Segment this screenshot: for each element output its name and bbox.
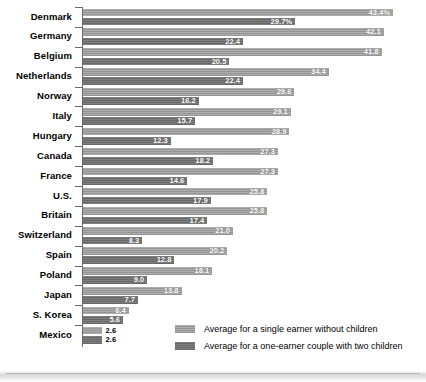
bar-value-label: 12.8 bbox=[157, 256, 172, 264]
category-label: Hungary bbox=[0, 130, 72, 141]
bar-row: Hungary28.912.3 bbox=[0, 126, 426, 146]
bar-value-label: 22.4 bbox=[225, 77, 240, 85]
bar-value-label: 22.4 bbox=[225, 38, 240, 46]
bar-light bbox=[83, 68, 329, 76]
bar-pair: 27.318.2 bbox=[83, 148, 426, 165]
bar-pair: 18.19.0 bbox=[83, 267, 426, 284]
bar-value-label: 25.8 bbox=[250, 188, 265, 196]
bar-row: Spain20.212.8 bbox=[0, 246, 426, 266]
axis-tick bbox=[75, 305, 82, 306]
bar-dark bbox=[83, 58, 229, 66]
legend-item: Average for a one-earner couple with two… bbox=[175, 339, 425, 353]
bar-pair: 21.08.3 bbox=[83, 227, 426, 244]
category-label: Belgium bbox=[0, 50, 72, 61]
category-label: Britain bbox=[0, 209, 72, 220]
bar-value-label: 29.1 bbox=[273, 108, 288, 116]
tax-burden-bar-chart: Denmark43.4%29.7%Germany42.122.4Belgium4… bbox=[0, 0, 426, 382]
bar-dark bbox=[83, 38, 243, 46]
bar-pair: 28.912.3 bbox=[83, 128, 426, 145]
bar-value-label: 17.9 bbox=[193, 197, 208, 205]
axis-tick bbox=[75, 325, 82, 326]
bar-row: Denmark43.4%29.7% bbox=[0, 7, 426, 27]
bar-pair: 20.212.8 bbox=[83, 247, 426, 264]
axis-tick bbox=[75, 226, 82, 227]
axis-tick bbox=[75, 126, 82, 127]
category-label: S. Korea bbox=[0, 309, 72, 320]
axis-tick bbox=[75, 266, 82, 267]
bar-row: Italy29.115.7 bbox=[0, 106, 426, 126]
bar-row: Norway29.616.2 bbox=[0, 87, 426, 107]
bar-pair: 25.817.9 bbox=[83, 188, 426, 205]
axis-tick bbox=[75, 246, 82, 247]
bar-light bbox=[83, 148, 278, 156]
bar-row: U.S.25.817.9 bbox=[0, 186, 426, 206]
category-label: Spain bbox=[0, 249, 72, 260]
bar-value-label: 8.3 bbox=[129, 237, 140, 245]
bar-value-label: 18.2 bbox=[195, 157, 210, 165]
axis-tick bbox=[75, 206, 82, 207]
axis-tick bbox=[75, 7, 82, 8]
bar-pair: 25.817.4 bbox=[83, 207, 426, 224]
bar-value-label: 34.4 bbox=[311, 68, 326, 76]
axis-tick bbox=[75, 285, 82, 286]
category-label: Netherlands bbox=[0, 70, 72, 81]
bar-light bbox=[83, 88, 294, 96]
legend-label: Average for a single earner without chil… bbox=[204, 324, 377, 334]
category-label: Poland bbox=[0, 269, 72, 280]
bar-dark bbox=[83, 77, 243, 85]
bar-value-label: 9.0 bbox=[134, 276, 145, 284]
bar-light bbox=[83, 28, 384, 36]
bar-pair: 29.616.2 bbox=[83, 88, 426, 105]
bar-value-label: 17.4 bbox=[190, 217, 205, 225]
bar-value-label: 14.6 bbox=[170, 177, 185, 185]
category-label: Norway bbox=[0, 90, 72, 101]
bar-value-label: 16.2 bbox=[181, 97, 196, 105]
bar-value-label: 7.7 bbox=[124, 296, 135, 304]
bar-value-label: 29.7% bbox=[271, 18, 293, 26]
category-label: U.S. bbox=[0, 190, 72, 201]
category-label: Denmark bbox=[0, 11, 72, 22]
legend-item: Average for a single earner without chil… bbox=[175, 322, 425, 336]
bar-light bbox=[83, 188, 267, 196]
bar-value-label: 21.0 bbox=[215, 227, 230, 235]
bar-pair: 13.87.7 bbox=[83, 287, 426, 304]
bar-light bbox=[83, 267, 212, 275]
bar-value-label: 42.1 bbox=[366, 28, 381, 36]
bar-value-label: 28.9 bbox=[272, 128, 287, 136]
axis-tick bbox=[75, 27, 82, 28]
bar-dark bbox=[83, 336, 102, 344]
bar-dark bbox=[83, 197, 211, 205]
bar-row: Japan13.87.7 bbox=[0, 285, 426, 305]
axis-tick bbox=[75, 47, 82, 48]
category-label: Germany bbox=[0, 30, 72, 41]
category-label: Canada bbox=[0, 150, 72, 161]
bar-value-label: 18.1 bbox=[195, 267, 210, 275]
bar-value-label: 6.4 bbox=[115, 307, 126, 315]
bar-light bbox=[83, 227, 233, 235]
bar-value-label: 20.5 bbox=[212, 58, 227, 66]
bar-pair: 27.314.6 bbox=[83, 168, 426, 185]
bar-value-label: 29.6 bbox=[277, 88, 292, 96]
bar-pair: 42.122.4 bbox=[83, 28, 426, 45]
bar-row: Germany42.122.4 bbox=[0, 27, 426, 47]
plot-area: Denmark43.4%29.7%Germany42.122.4Belgium4… bbox=[0, 0, 426, 352]
category-label: Mexico bbox=[0, 329, 72, 340]
bar-value-label: 20.2 bbox=[210, 247, 225, 255]
bar-light bbox=[83, 327, 102, 335]
bar-value-label: 15.7 bbox=[177, 117, 192, 125]
page-edge-shadow bbox=[0, 366, 426, 382]
axis-tick bbox=[75, 87, 82, 88]
bar-row: Netherlands34.422.4 bbox=[0, 67, 426, 87]
bar-value-label: 25.8 bbox=[250, 207, 265, 215]
bar-light bbox=[83, 48, 382, 56]
bar-value-label: 27.3 bbox=[260, 168, 275, 176]
axis-tick bbox=[75, 106, 82, 107]
legend-swatch-dark bbox=[175, 342, 195, 351]
bar-value-label: 13.8 bbox=[164, 287, 179, 295]
bar-value-label: 41.8 bbox=[364, 48, 379, 56]
chart-legend: Average for a single earner without chil… bbox=[175, 322, 425, 356]
bar-pair: 34.422.4 bbox=[83, 68, 426, 85]
axis-tick bbox=[75, 67, 82, 68]
bar-row: Britain25.817.4 bbox=[0, 206, 426, 226]
bar-row: Switzerland21.08.3 bbox=[0, 226, 426, 246]
